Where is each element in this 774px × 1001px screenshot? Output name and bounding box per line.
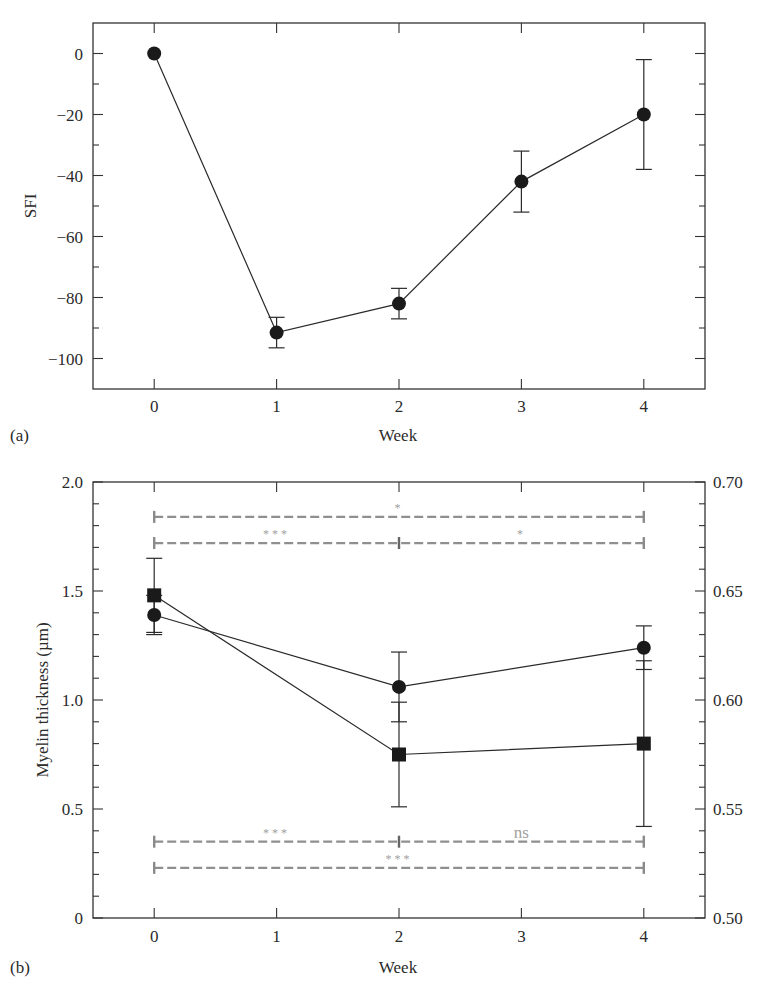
y-tick-label: −100 <box>48 350 83 369</box>
significance-bracket: * <box>154 501 644 523</box>
square-marker <box>637 737 651 751</box>
panel-a-plot-frame <box>93 23 705 389</box>
left-y-tick-label: 0 <box>75 909 84 928</box>
significance-bracket: ***ns <box>154 823 644 848</box>
x-tick-label: 2 <box>395 397 404 416</box>
panel-a-label: (a) <box>10 426 29 445</box>
significance-stars: *** <box>263 527 290 541</box>
right-y-tick-label: 0.60 <box>713 691 743 710</box>
panel-a-ticks: 012340−20−40−60−80−100 <box>48 23 705 416</box>
circle-marker <box>392 680 406 694</box>
y-tick-label: −20 <box>56 106 83 125</box>
panel-b-series <box>146 558 652 826</box>
right-y-tick-label: 0.65 <box>713 582 743 601</box>
panel-b-x-axis-title: Week <box>379 958 418 977</box>
circle-marker <box>637 108 651 122</box>
significance-stars: *** <box>386 852 413 866</box>
x-tick-label: 1 <box>272 397 281 416</box>
y-tick-label: 0 <box>75 45 84 64</box>
panel-a-series <box>147 47 652 348</box>
x-tick-label: 0 <box>150 927 159 946</box>
right-y-tick-label: 0.70 <box>713 473 743 492</box>
y-tick-label: −60 <box>56 228 83 247</box>
figure: 012340−20−40−60−80−100 SFI Week (a) 0123… <box>0 0 774 1001</box>
circle-marker <box>270 326 284 340</box>
x-tick-label: 3 <box>517 397 526 416</box>
significance-stars: * <box>517 527 526 541</box>
x-tick-label: 4 <box>640 927 649 946</box>
left-y-tick-label: 2.0 <box>62 473 83 492</box>
circle-marker <box>147 47 161 61</box>
circle-marker <box>514 175 528 189</box>
x-tick-label: 0 <box>150 397 159 416</box>
left-y-tick-label: 1.5 <box>62 582 83 601</box>
significance-bracket: *** <box>154 852 644 874</box>
x-tick-label: 2 <box>395 927 404 946</box>
ns-label: ns <box>514 823 529 842</box>
y-tick-label: −40 <box>56 167 83 186</box>
panel-a-x-axis-title: Week <box>379 426 418 445</box>
significance-stars: *** <box>263 826 290 840</box>
panel-a-sfi-chart: 012340−20−40−60−80−100 SFI Week (a) <box>10 23 705 445</box>
circle-marker <box>147 608 161 622</box>
square-marker <box>147 588 161 602</box>
square-marker <box>392 748 406 762</box>
panel-b-myelin-chart: 0123400.51.01.52.00.500.550.600.650.70 *… <box>10 473 743 977</box>
left-y-tick-label: 0.5 <box>62 800 83 819</box>
x-tick-label: 1 <box>272 927 281 946</box>
x-tick-label: 3 <box>517 927 526 946</box>
x-tick-label: 4 <box>640 397 649 416</box>
significance-bracket: **** <box>154 527 644 549</box>
left-y-tick-label: 1.0 <box>62 691 83 710</box>
right-y-tick-label: 0.55 <box>713 800 743 819</box>
significance-stars: * <box>395 501 404 515</box>
y-tick-label: −80 <box>56 289 83 308</box>
panel-b-y-axis-title: Myelin thickness (µm) <box>33 622 52 777</box>
circle-marker <box>637 641 651 655</box>
circle-marker <box>392 297 406 311</box>
right-y-tick-label: 0.50 <box>713 909 743 928</box>
panel-a-y-axis-title: SFI <box>21 193 40 218</box>
panel-b-label: (b) <box>10 958 30 977</box>
